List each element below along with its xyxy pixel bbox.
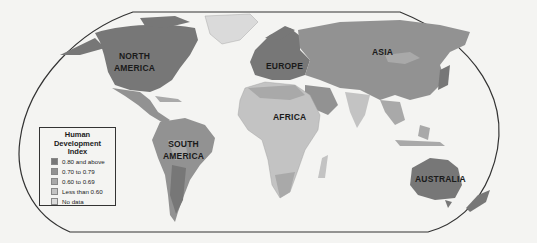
label-line: AUSTRALIA [415, 173, 466, 185]
new-zealand-shape [466, 190, 490, 212]
legend-label: 0.80 and above [62, 158, 105, 165]
legend-swatch [51, 178, 58, 185]
world-hdi-map: NORTH AMERICA SOUTH AMERICA EUROPE AFRIC… [0, 0, 537, 243]
label-australia: AUSTRALIA [415, 173, 466, 185]
legend-title: Human Development Index [44, 131, 111, 157]
madagascar-shape [318, 155, 328, 178]
legend-swatch [51, 168, 58, 175]
legend-item: Less than 0.60 [51, 187, 111, 197]
legend-label: 0.70 to 0.79 [62, 168, 95, 175]
label-line: AMERICA [163, 150, 204, 162]
label-line: AMERICA [114, 62, 155, 74]
world-map-graphic [0, 0, 537, 243]
legend-item: 0.80 and above [51, 157, 111, 167]
label-europe: EUROPE [266, 60, 303, 72]
label-south-america: SOUTH AMERICA [163, 138, 204, 162]
label-asia: ASIA [372, 46, 393, 58]
label-africa: AFRICA [273, 111, 306, 123]
label-line: SOUTH [163, 138, 204, 150]
label-line: NORTH [114, 50, 155, 62]
legend-item: 0.70 to 0.79 [51, 167, 111, 177]
mexico-shape [112, 88, 170, 124]
legend-label: 0.60 to 0.69 [62, 178, 95, 185]
label-line: EUROPE [266, 60, 303, 72]
legend-label: Less than 0.60 [62, 188, 103, 195]
legend-swatch [51, 158, 58, 165]
legend-label: No data [62, 198, 84, 205]
legend-swatch [51, 188, 58, 195]
label-line: ASIA [372, 46, 393, 58]
map-legend: Human Development Index 0.80 and above 0… [39, 127, 116, 206]
legend-title-line: Index [44, 148, 111, 157]
legend-swatch [51, 198, 58, 205]
india-shape [345, 92, 370, 128]
legend-item: 0.60 to 0.69 [51, 177, 111, 187]
greenland-shape [205, 14, 258, 44]
label-north-america: NORTH AMERICA [114, 50, 155, 74]
label-line: AFRICA [273, 111, 306, 123]
legend-title-line: Human Development [44, 131, 111, 148]
alaska-shape [60, 38, 105, 55]
legend-item: No data [51, 197, 111, 207]
